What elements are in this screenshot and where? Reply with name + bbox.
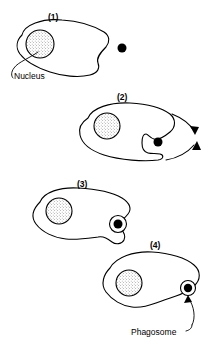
panel-3-particle: [114, 220, 123, 229]
panel-2-particle: [154, 138, 163, 147]
panel-label-2: (2): [117, 92, 127, 102]
panel-1-nucleus: [26, 30, 54, 58]
panel-4-particle: [184, 284, 192, 292]
panel-label-4: (4): [150, 240, 160, 250]
panel-label-1: (1): [48, 12, 58, 22]
panel-4-phagosome-leader-arrow-head: [184, 295, 192, 303]
panel-2-upper-arrow-shaft: [172, 114, 194, 131]
panel-4-group: [103, 252, 199, 331]
nucleus-label: Nucleus: [14, 71, 45, 81]
phagosome-label: Phagosome: [131, 327, 176, 337]
panel-label-3: (3): [77, 179, 87, 189]
phagocytosis-diagram-canvas: [0, 0, 213, 348]
panel-3-group: [33, 188, 130, 244]
panel-2-group: [79, 103, 201, 161]
panel-1-particle: [118, 44, 127, 53]
panel-2-upper-arrow-head: [190, 126, 199, 135]
panel-2-lower-arrow-shaft: [166, 145, 194, 160]
panel-2-cell-membrane: [79, 103, 174, 161]
panel-1-group: [12, 20, 127, 78]
panel-2-nucleus: [94, 113, 120, 139]
panel-4-phagosome-label-connector: [186, 325, 192, 331]
panel-4-phagosome-leader-line: [189, 299, 194, 325]
panel-4-nucleus: [116, 270, 142, 296]
panel-3-nucleus: [46, 198, 72, 224]
phagocytosis-figure: (1) (2) (3) (4) Nucleus Phagosome: [0, 0, 213, 348]
